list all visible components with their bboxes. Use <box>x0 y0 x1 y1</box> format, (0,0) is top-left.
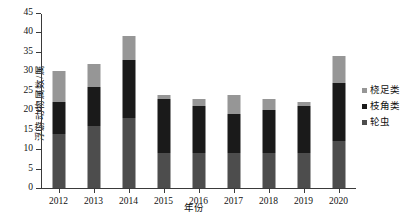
bar-2012[interactable] <box>52 71 65 188</box>
bar-segment-桡足类 <box>122 36 135 59</box>
y-axis-tick-label: 5 <box>28 162 33 175</box>
plot-area: 0510152025303540452012201320142015201620… <box>41 14 356 189</box>
bar-segment-轮虫 <box>227 153 240 188</box>
y-axis-tick-label: 10 <box>24 142 34 155</box>
y-axis-tick: 30 <box>36 71 41 72</box>
y-axis-tick: 5 <box>36 169 41 170</box>
bar-segment-轮虫 <box>192 153 205 188</box>
bar-segment-枝角类 <box>227 114 240 153</box>
y-axis-tick: 45 <box>36 13 41 14</box>
y-axis-tick: 0 <box>36 188 41 189</box>
legend-item-0[interactable]: 桡足类 <box>362 82 414 98</box>
y-axis-tick: 40 <box>36 32 41 33</box>
bar-segment-枝角类 <box>192 106 205 153</box>
bar-segment-桡足类 <box>332 56 345 83</box>
x-axis-tick <box>94 189 95 193</box>
legend-swatch-icon <box>362 120 367 125</box>
bar-segment-桡足类 <box>227 95 240 114</box>
bar-segment-桡足类 <box>192 99 205 107</box>
bar-segment-桡足类 <box>262 99 275 111</box>
y-axis-tick-label: 20 <box>24 103 34 116</box>
bar-segment-枝角类 <box>297 106 310 153</box>
bar-2014[interactable] <box>122 36 135 188</box>
x-axis-tick <box>234 189 235 193</box>
bar-2016[interactable] <box>192 99 205 188</box>
y-axis-tick: 15 <box>36 130 41 131</box>
legend-item-2[interactable]: 轮虫 <box>362 114 414 130</box>
stacked-bar-chart: 浮游动物属数/属 0510152025303540452012201320142… <box>0 0 414 222</box>
bar-segment-枝角类 <box>262 110 275 153</box>
x-axis-tick <box>164 189 165 193</box>
bar-2017[interactable] <box>227 95 240 188</box>
x-axis-tick <box>129 189 130 193</box>
legend-label: 桡足类 <box>370 85 400 96</box>
y-axis-tick: 10 <box>36 149 41 150</box>
bar-segment-轮虫 <box>297 153 310 188</box>
x-axis-tick <box>339 189 340 193</box>
bar-segment-桡足类 <box>87 64 100 87</box>
x-axis-title-text: 年份 <box>184 203 204 213</box>
y-axis-tick-label: 15 <box>24 123 34 136</box>
legend-item-1[interactable]: 枝角类 <box>362 98 414 114</box>
y-axis-tick: 35 <box>36 52 41 53</box>
legend-swatch-icon <box>362 104 367 109</box>
legend-label: 轮虫 <box>370 117 390 128</box>
bar-segment-轮虫 <box>262 153 275 188</box>
bar-segment-轮虫 <box>332 141 345 188</box>
y-axis-tick-label: 30 <box>24 64 34 77</box>
bar-segment-枝角类 <box>332 83 345 141</box>
bar-segment-轮虫 <box>52 134 65 188</box>
x-axis-tick <box>269 189 270 193</box>
bar-segment-轮虫 <box>87 126 100 188</box>
bar-segment-枝角类 <box>87 87 100 126</box>
y-axis-tick: 25 <box>36 91 41 92</box>
chart-legend: 桡足类枝角类轮虫 <box>362 82 414 130</box>
bar-2020[interactable] <box>332 56 345 188</box>
y-axis-tick-label: 45 <box>24 6 34 19</box>
y-axis-tick-label: 40 <box>24 25 34 38</box>
bar-segment-枝角类 <box>157 99 170 153</box>
bar-2015[interactable] <box>157 95 170 188</box>
bar-segment-枝角类 <box>52 102 65 133</box>
legend-swatch-icon <box>362 88 367 93</box>
bar-segment-枝角类 <box>122 60 135 118</box>
bar-segment-轮虫 <box>122 118 135 188</box>
x-axis-tick <box>59 189 60 193</box>
x-axis-title: 年份 <box>41 200 356 214</box>
y-axis-tick: 20 <box>36 110 41 111</box>
x-axis-tick <box>304 189 305 193</box>
y-axis-tick-label: 25 <box>24 84 34 97</box>
bar-segment-轮虫 <box>157 153 170 188</box>
bar-2019[interactable] <box>297 102 310 188</box>
y-axis-tick-label: 35 <box>24 45 34 58</box>
y-axis-tick-label: 0 <box>28 181 33 194</box>
x-axis-tick <box>199 189 200 193</box>
y-axis-line <box>41 14 42 189</box>
bar-2018[interactable] <box>262 99 275 188</box>
legend-label: 枝角类 <box>370 101 400 112</box>
bar-segment-桡足类 <box>52 71 65 102</box>
bar-2013[interactable] <box>87 64 100 188</box>
